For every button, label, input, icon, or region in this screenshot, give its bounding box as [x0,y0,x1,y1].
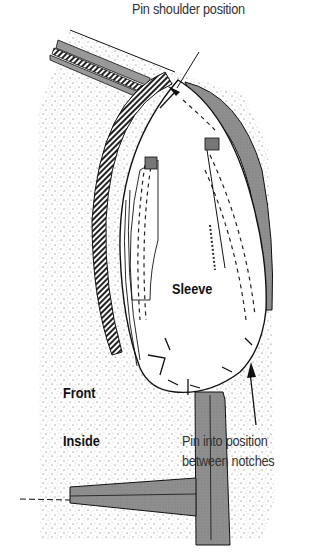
label-pin-notches-2: between notches [182,452,274,470]
label-inside: Inside [63,432,100,449]
label-pin-notches-1: Pin into position [182,432,268,450]
label-sleeve: Sleeve [172,280,212,297]
sleeve-diagram [0,0,317,559]
label-pin-shoulder: Pin shoulder position [132,0,245,18]
label-front: Front [63,384,96,401]
